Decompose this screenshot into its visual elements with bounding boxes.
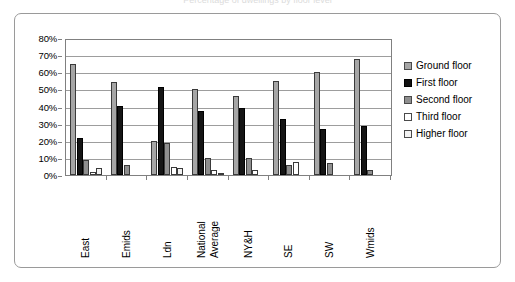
y-axis-tick-label: 40% [39, 103, 57, 113]
bar [177, 168, 183, 175]
x-axis-label-cell: NationalAverage [188, 182, 229, 258]
x-axis-label-cell: SW [310, 182, 351, 258]
y-axis: 80%70%60%50%40%30%20%10%0% [14, 39, 62, 176]
y-axis-tick-label: 70% [39, 51, 57, 61]
y-axis-tick-mark [58, 125, 62, 126]
y-axis-tick-label: 0% [44, 171, 57, 181]
x-axis-tick-label: National [196, 182, 208, 258]
bar [239, 108, 245, 176]
bar [280, 119, 286, 175]
x-axis-label-cell: Ldn [147, 182, 188, 258]
x-axis-tick-label: Ldn [162, 182, 174, 258]
bar [246, 158, 252, 175]
legend-item[interactable]: Higher floor [404, 125, 499, 142]
legend-swatch-higher-floor [404, 130, 412, 138]
x-axis-label-cell: SE [269, 182, 310, 258]
bar-group [310, 40, 351, 175]
y-axis-tick-mark [58, 142, 62, 143]
y-axis-tick-mark [58, 159, 62, 160]
y-axis-tick-mark [58, 73, 62, 74]
clipped-title: Percentage of dwellings by floor level [0, 0, 515, 9]
bar [158, 87, 164, 175]
x-axis-tick-mark [269, 176, 310, 180]
legend-item[interactable]: Ground floor [404, 57, 499, 74]
x-axis-tick-mark [350, 176, 391, 180]
bar [90, 172, 96, 175]
legend-item-label: Third floor [416, 111, 461, 122]
bar-group [229, 40, 270, 175]
bar [205, 158, 211, 175]
x-axis-tick-mark [66, 176, 107, 180]
legend-item[interactable]: Third floor [404, 108, 499, 125]
legend-item-label: Second floor [416, 94, 472, 105]
x-axis-labels: EastEmidsLdnNationalAverageNY&HSESWWmids [66, 182, 391, 258]
y-axis-tick-label: 30% [39, 120, 57, 130]
x-axis-tick-label: Wmids [365, 182, 377, 258]
x-axis-label-cell: East [66, 182, 107, 258]
bar [96, 168, 102, 175]
legend-swatch-ground-floor [404, 62, 412, 70]
legend-item-label: First floor [416, 77, 458, 88]
bar [354, 59, 360, 175]
bar-group [107, 40, 148, 175]
bar [293, 162, 299, 176]
legend-item[interactable]: First floor [404, 74, 499, 91]
y-axis-tick-label: 20% [39, 137, 57, 147]
legend-swatch-first-floor [404, 79, 412, 87]
bar-group [66, 40, 107, 175]
bar [327, 163, 333, 175]
legend-item-label: Ground floor [416, 60, 472, 71]
bar [286, 165, 292, 175]
bar [83, 160, 89, 175]
x-axis-tick-label: Emids [121, 182, 133, 258]
legend-item-label: Higher floor [416, 128, 468, 139]
y-axis-tick-mark [58, 39, 62, 40]
bar [171, 167, 177, 175]
bar [77, 138, 83, 175]
bar-group [188, 40, 229, 175]
bar-chart: 80%70%60%50%40%30%20%10%0% EastEmidsLdnN… [14, 13, 501, 268]
bar [361, 126, 367, 175]
bar [314, 72, 320, 175]
x-axis-tick-label: SE [283, 182, 295, 258]
y-axis-tick-mark [58, 108, 62, 109]
y-axis-tick-mark [58, 176, 62, 177]
y-axis-tick-mark [58, 90, 62, 91]
bar [111, 82, 117, 175]
y-axis-tick-mark [58, 56, 62, 57]
legend-item[interactable]: Second floor [404, 91, 499, 108]
bar [164, 143, 170, 175]
bar [367, 170, 373, 175]
y-axis-tick-label: 50% [39, 85, 57, 95]
bar [273, 81, 279, 176]
y-axis-tick-label: 80% [39, 34, 57, 44]
bar-group [269, 40, 310, 175]
x-axis-tick-label: East [80, 182, 92, 258]
bar-group [350, 40, 391, 175]
bar [192, 89, 198, 175]
x-axis-label-cell: NY&H [229, 182, 270, 258]
bar [211, 170, 217, 175]
y-axis-tick-label: 60% [39, 68, 57, 78]
x-axis-tick-mark [188, 176, 229, 180]
x-axis-label-cell: Wmids [350, 182, 391, 258]
x-axis-tick-label: NY&H [243, 182, 255, 258]
legend-swatch-second-floor [404, 96, 412, 104]
bar [320, 129, 326, 175]
x-axis-tick-mark [229, 176, 270, 180]
x-axis-tick-label: Average [209, 182, 221, 258]
bar [151, 141, 157, 175]
bar [117, 106, 123, 175]
bar [218, 173, 224, 175]
x-axis-tick-mark [107, 176, 148, 180]
x-axis-tick-mark [310, 176, 351, 180]
x-axis-tick-label: SW [324, 182, 336, 258]
y-axis-tick-label: 10% [39, 154, 57, 164]
x-axis-tick-mark [147, 176, 188, 180]
chart-screenshot: Percentage of dwellings by floor level 8… [0, 0, 515, 282]
bar-groups [66, 40, 391, 175]
bar [124, 165, 130, 175]
x-axis-ticks [66, 176, 391, 180]
x-axis-label-cell: Emids [107, 182, 148, 258]
bar [233, 96, 239, 175]
